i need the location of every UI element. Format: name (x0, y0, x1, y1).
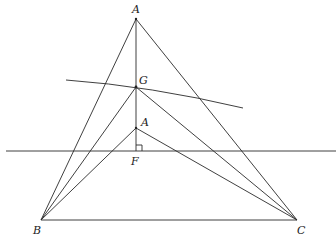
point-G (135, 86, 138, 89)
segment-AC-top (136, 19, 297, 220)
arc-curve (66, 80, 243, 108)
label-G: G (139, 74, 148, 87)
label-A-low: A (140, 116, 149, 129)
segment-AB-top (41, 19, 136, 220)
label-F: F (130, 155, 139, 168)
point-A-top (135, 18, 137, 20)
segment-GC (136, 87, 297, 220)
segment-AC-low (136, 128, 297, 220)
label-B: B (32, 224, 41, 237)
segment-AB-low (41, 128, 136, 220)
point-A-low (135, 127, 137, 129)
right-angle-marker (136, 145, 142, 151)
label-C: C (297, 224, 306, 237)
geometry-diagram: A G A F B C (0, 0, 336, 244)
label-A-top: A (131, 3, 140, 16)
segment-GB (41, 87, 136, 220)
